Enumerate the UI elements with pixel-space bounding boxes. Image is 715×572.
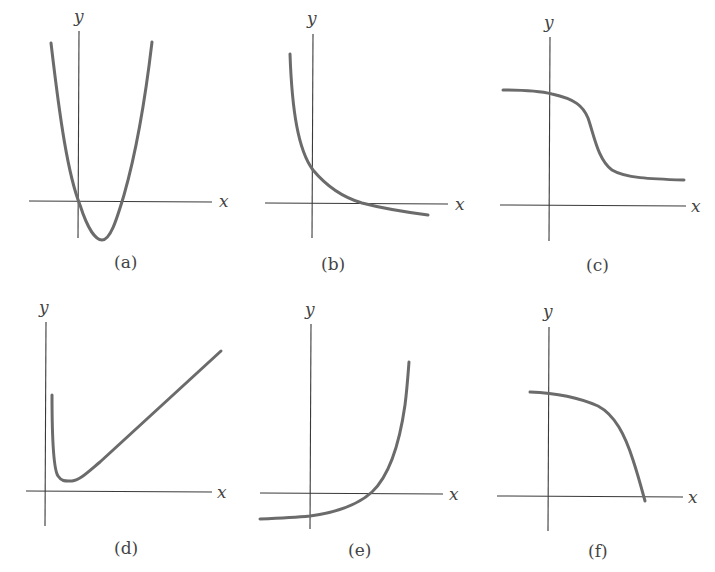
y-axis <box>548 327 549 531</box>
x-axis <box>260 493 443 494</box>
panel-c: y x (c) <box>500 12 701 275</box>
panel-caption: (e) <box>348 540 371 560</box>
x-axis <box>497 496 683 497</box>
x-axis-label: x <box>217 482 227 502</box>
y-axis <box>312 34 313 238</box>
y-axis-label: y <box>38 297 49 317</box>
panel-caption: (f) <box>588 541 608 561</box>
x-axis-label: x <box>691 196 701 216</box>
y-axis-label: y <box>542 301 553 321</box>
y-axis <box>45 322 46 526</box>
parabola-curve <box>51 42 152 240</box>
x-axis-label: x <box>455 194 465 214</box>
y-axis <box>310 324 311 529</box>
y-axis <box>78 31 79 238</box>
y-axis-label: y <box>73 6 84 26</box>
asymptotic-linear-curve <box>52 351 221 481</box>
x-axis <box>26 491 212 492</box>
x-axis-label: x <box>688 487 698 507</box>
concave-decreasing-curve <box>530 392 645 501</box>
panel-caption: (c) <box>586 255 609 275</box>
panel-f: y x (f) <box>497 301 698 561</box>
panel-caption: (a) <box>114 252 137 272</box>
x-axis <box>265 203 448 204</box>
panel-d: y x (d) <box>26 297 227 558</box>
panel-caption: (d) <box>114 538 138 558</box>
panel-e: y x (e) <box>260 299 459 560</box>
panel-b: y x (b) <box>265 8 465 274</box>
exponential-curve <box>260 362 409 519</box>
panel-caption: (b) <box>321 254 345 274</box>
graph-grid-figure: y x (a) y x (b) y x (c) y x (d) y x (e) <box>0 0 715 572</box>
x-axis-label: x <box>219 191 229 211</box>
decreasing-curve <box>290 54 428 215</box>
x-axis-label: x <box>449 484 459 504</box>
y-axis-label: y <box>306 8 317 28</box>
y-axis-label: y <box>304 299 315 319</box>
y-axis-label: y <box>543 12 554 32</box>
sigmoid-curve <box>503 90 684 180</box>
x-axis <box>500 205 686 206</box>
y-axis <box>549 37 550 241</box>
panel-a: y x (a) <box>29 6 229 272</box>
